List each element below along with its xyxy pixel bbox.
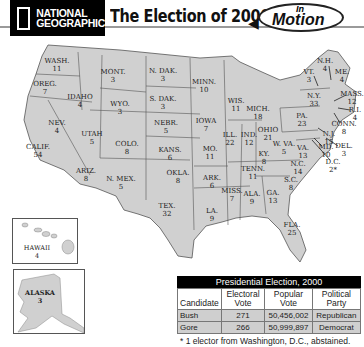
- electoral-votes: 33: [307, 101, 321, 109]
- col-candidate: Candidate: [178, 289, 222, 310]
- electoral-votes: 5: [154, 128, 178, 136]
- footnote: * 1 elector from Washington, D.C., absta…: [180, 336, 350, 346]
- alaska-inset: ALASKA 3: [13, 269, 85, 334]
- state-label: LA.9: [206, 208, 218, 223]
- state-label: COLO.8: [115, 141, 138, 156]
- state-label: NEV.4: [48, 120, 65, 135]
- state-label: UTAH5: [81, 131, 102, 146]
- state-label: MINN.10: [192, 79, 216, 94]
- electoral-votes: 32: [159, 211, 176, 219]
- state-label: MONT.3: [101, 69, 126, 84]
- electoral-votes: 13: [297, 153, 309, 161]
- electoral-votes: 13: [267, 198, 280, 206]
- electoral-votes: 10: [192, 87, 216, 95]
- electoral-votes: 4: [48, 128, 65, 136]
- table-title: Presidential Election, 2000: [177, 276, 361, 288]
- electoral-votes: 8: [115, 149, 138, 157]
- state-label: NEBR.5: [154, 120, 178, 135]
- electoral-votes: 4: [317, 66, 333, 74]
- state-label: N.H.4: [317, 58, 333, 73]
- electoral-votes: 12: [241, 140, 257, 148]
- electoral-votes: 54: [26, 152, 50, 160]
- state-label: VT.3: [304, 69, 315, 84]
- state-label: W. VA.5: [273, 141, 295, 156]
- electoral-votes: 4: [67, 102, 92, 110]
- electoral-votes: 2*: [326, 167, 341, 175]
- state-label: WASH.11: [44, 58, 69, 73]
- logo-line-2: GEOGRAPHIC: [36, 18, 105, 29]
- electoral-votes: 22: [223, 140, 237, 148]
- electoral-votes: 25: [284, 230, 301, 238]
- col-popular: Popular Vote: [265, 289, 312, 310]
- state-label: VA.13: [297, 145, 309, 160]
- cell-candidate: Bush: [178, 310, 222, 322]
- electoral-votes: 5: [273, 149, 295, 157]
- cell-popular: 50,456,002: [265, 310, 312, 322]
- electoral-votes: 7: [221, 196, 242, 204]
- electoral-votes: 14: [290, 169, 305, 177]
- state-label: GA.13: [267, 190, 280, 205]
- electoral-votes: 3: [149, 104, 176, 112]
- state-label: IDAHO4: [67, 94, 92, 109]
- hawaii-inset: HAWAII 4: [12, 218, 78, 264]
- state-label: ME.4: [335, 69, 350, 84]
- cell-party: Democrat: [312, 322, 360, 334]
- electoral-votes: 3: [335, 151, 353, 159]
- electoral-votes: 3: [304, 77, 315, 85]
- state-label: MASS.12: [340, 91, 364, 106]
- state-label: ARIZ.8: [76, 168, 96, 183]
- state-label: S.C.8: [284, 177, 298, 192]
- electoral-votes: 6: [203, 183, 221, 191]
- electoral-votes: 12: [340, 99, 364, 107]
- state-label: MICH.18: [246, 106, 270, 121]
- results-table: Presidential Election, 2000 Candidate El…: [177, 276, 361, 334]
- state-label: S. DAK.3: [149, 96, 176, 111]
- electoral-votes: 11: [44, 66, 69, 74]
- badge-motion-text: Motion: [272, 11, 324, 29]
- electoral-votes: 8: [167, 178, 190, 186]
- electoral-votes: 3: [101, 77, 126, 85]
- electoral-votes: 5: [81, 139, 102, 147]
- state-label: N.Y.33: [307, 93, 321, 108]
- state-label: CALIF.54: [26, 144, 50, 159]
- electoral-votes: 9: [206, 216, 218, 224]
- state-label: FLA.25: [284, 222, 301, 237]
- electoral-votes: 11: [228, 106, 245, 114]
- electoral-votes: 7: [33, 89, 57, 97]
- electoral-votes: 8: [331, 129, 356, 137]
- state-label: N.C.14: [290, 161, 305, 176]
- electoral-votes: 8: [76, 176, 96, 184]
- electoral-votes: 23: [296, 121, 307, 129]
- state-label: TENN.11: [241, 166, 265, 181]
- cell-popular: 50,999,897: [265, 322, 312, 334]
- electoral-votes: 7: [196, 126, 216, 134]
- electoral-votes: 11: [203, 154, 218, 162]
- state-label: OREG.7: [33, 81, 57, 96]
- cell-electoral: 271: [221, 310, 265, 322]
- state-label: CONN.8: [331, 121, 356, 136]
- state-label: OKLA.8: [167, 170, 190, 185]
- state-label: N. MEX.5: [106, 176, 136, 191]
- electoral-votes: 9: [244, 199, 261, 207]
- cell-candidate: Gore: [178, 322, 222, 334]
- electoral-votes: 8: [284, 185, 298, 193]
- electoral-votes: 4: [335, 77, 350, 85]
- hawaii-votes: 4: [24, 253, 50, 261]
- cell-electoral: 266: [221, 322, 265, 334]
- state-label: MD.10: [319, 144, 334, 159]
- state-label: KANS.6: [159, 147, 182, 162]
- state-label: MISS.7: [221, 188, 242, 203]
- cell-party: Republican: [312, 310, 360, 322]
- state-label: TEX.32: [159, 203, 176, 218]
- state-label: WIS.11: [228, 98, 245, 113]
- page-title: The Election of 2000: [110, 6, 270, 26]
- table-row: Gore 266 50,999,897 Democrat: [178, 322, 361, 334]
- state-label: WYO.3: [110, 101, 129, 116]
- state-label: IOWA7: [196, 118, 216, 133]
- state-label: MO.11: [203, 146, 218, 161]
- electoral-votes: 18: [246, 114, 270, 122]
- col-party: Political Party: [312, 289, 360, 310]
- electoral-votes: 3: [149, 76, 177, 84]
- state-label: PA.23: [296, 113, 307, 128]
- col-electoral: Electoral Vote: [221, 289, 265, 310]
